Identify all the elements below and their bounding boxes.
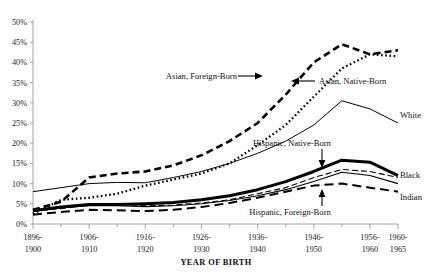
x-tick-label-bottom: 1900 — [25, 245, 41, 254]
x-tick-label-top: 1960- — [388, 233, 407, 242]
x-tick-label-bottom: 1960 — [362, 245, 378, 254]
x-tick-label-top: 1936- — [248, 233, 267, 242]
x-tick-label-top: 1926- — [192, 233, 211, 242]
x-tick-label-top: 1916- — [136, 233, 155, 242]
y-tick-label: 35% — [12, 79, 27, 88]
x-tick-label-bottom: 1950 — [306, 245, 322, 254]
x-tick-label-bottom: 1910 — [81, 245, 97, 254]
annotation-black-label: Black — [400, 170, 421, 180]
y-tick-label: 5% — [16, 200, 27, 209]
y-tick-label: 15% — [12, 159, 27, 168]
x-tick-label-bottom: 1920 — [137, 245, 153, 254]
y-tick-label: 50% — [12, 18, 27, 27]
y-tick-label: 40% — [12, 58, 27, 67]
line-chart: 0%5%10%15%20%25%30%35%40%45%50% 1896-190… — [0, 0, 433, 280]
annotation-asian-native-born-label: Asian, Native-Born — [319, 76, 387, 86]
y-tick-label: 25% — [12, 119, 27, 128]
x-tick-label-bottom: 1965 — [390, 245, 406, 254]
annotation-asian-foreign-born-label: Asian, Foreign-Born — [166, 71, 238, 81]
y-tick-label: 45% — [12, 38, 27, 47]
x-tick-label-bottom: 1930 — [193, 245, 209, 254]
annotation-hispanic-foreign-born-label: Hispanic, Foreign-Born — [249, 207, 331, 217]
chart-container: 0%5%10%15%20%25%30%35%40%45%50% 1896-190… — [0, 0, 433, 280]
y-tick-label: 20% — [12, 139, 27, 148]
y-tick-label: 0% — [16, 220, 27, 229]
x-tick-label-top: 1946- — [304, 233, 323, 242]
x-tick-label-top: 1956- — [360, 233, 379, 242]
y-tick-label: 30% — [12, 99, 27, 108]
x-tick-label-bottom: 1940 — [249, 245, 265, 254]
y-tick-label: 10% — [12, 180, 27, 189]
x-tick-label-top: 1906- — [80, 233, 99, 242]
x-tick-label-top: 1896- — [23, 233, 42, 242]
annotation-hispanic-native-born-label: Hispanic, Native-Born — [253, 138, 332, 148]
annotation-indian-label: Indian — [400, 192, 423, 202]
annotation-white-label: White — [400, 110, 421, 120]
x-axis-title: YEAR OF BIRTH — [180, 258, 251, 267]
